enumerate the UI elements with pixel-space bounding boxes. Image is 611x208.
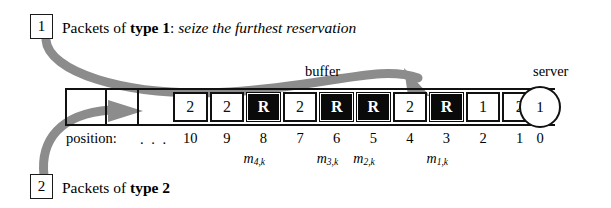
buffer-cell-5: R [356,92,391,122]
buffer-cell-value-5: R [357,93,390,121]
reservation-mark-3-k: m3,k [317,152,338,168]
reservation-mark-base: m [244,151,254,166]
server-node: 1 [519,86,561,128]
buffer-cell-4: 2 [393,92,428,122]
buffer-cell-9: 2 [210,92,245,122]
reservation-mark-base: m [353,151,363,166]
buffer-cell-value-2: 1 [467,93,500,121]
legend-box-type1: 1 [30,14,53,39]
reservation-mark-subscript: 4,k [254,157,265,167]
position-number-server: 0 [530,131,550,146]
buffer-cell-value-4: 2 [394,93,427,121]
server-label: server [533,64,568,79]
legend-box-type1-label: 1 [38,19,46,34]
buffer-cell-value-9: 2 [211,93,244,121]
buffer-cell-value-6: R [320,93,353,121]
server-value: 1 [536,99,544,116]
legend-type2-prefix: Packets of [62,179,130,196]
reservation-mark-1-k: m1,k [427,152,448,168]
diagram-canvas: 1 Packets of type 1: seize the furthest … [0,0,611,208]
reservation-mark-4-k: m4,k [244,152,265,168]
legend-text-type2: Packets of type 2 [62,180,170,196]
reservation-mark-subscript: 3,k [327,157,338,167]
buffer-cell-2: 1 [466,92,501,122]
strip-divider-1 [105,88,107,126]
reservation-mark-subscript: 2,k [363,157,374,167]
buffer-cell-7: 2 [283,92,318,122]
position-axis-label: position: [66,131,117,146]
legend-type1-bold: type 1 [130,19,170,36]
legend-box-type2-label: 2 [38,179,46,194]
buffer-cell-value-8: R [247,93,280,121]
reservation-mark-subscript: 1,k [437,157,448,167]
position-ellipsis: . . . [140,132,168,147]
reservation-mark-base: m [317,151,327,166]
buffer-label: buffer [305,64,340,79]
strip-divider-2 [137,88,139,126]
legend-type2-bold: type 2 [130,179,170,196]
legend-type1-prefix: Packets of [62,19,130,36]
buffer-cell-8: R [246,92,281,122]
buffer-cell-value-10: 2 [174,93,207,121]
type1-arrow-path [46,40,418,93]
legend-text-type1: Packets of type 1: seize the furthest re… [62,20,356,36]
buffer-cell-3: R [429,92,464,122]
buffer-cell-10: 2 [173,92,208,122]
reservation-mark-2-k: m2,k [353,152,374,168]
legend-type1-italic: seize the furthest reservation [178,19,356,36]
buffer-cell-value-7: 2 [284,93,317,121]
strip-divider-0 [65,88,67,126]
buffer-cell-value-3: R [430,93,463,121]
legend-box-type2: 2 [30,174,53,199]
reservation-mark-base: m [427,151,437,166]
buffer-cell-6: R [319,92,354,122]
